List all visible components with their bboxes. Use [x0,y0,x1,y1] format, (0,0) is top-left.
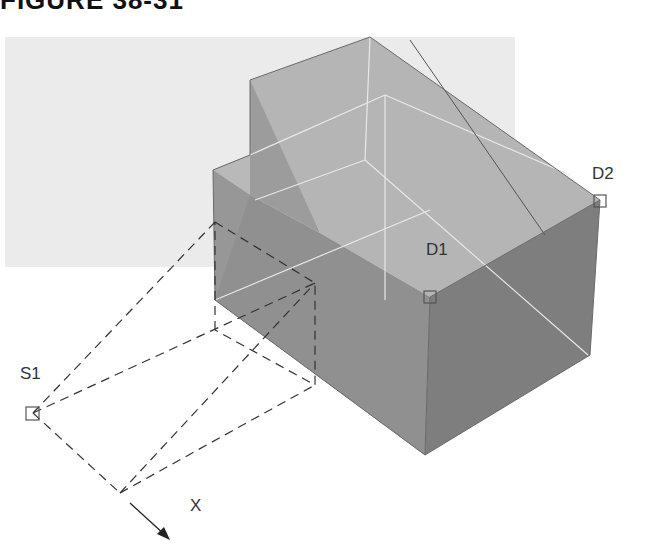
label-d1: D1 [426,240,448,259]
x-direction-arrow-line [130,503,165,535]
label-d2: D2 [592,164,614,183]
3d-model-diagram: D1 D2 S1 X [0,0,663,553]
label-s1: S1 [20,364,41,383]
label-x: X [190,496,201,515]
